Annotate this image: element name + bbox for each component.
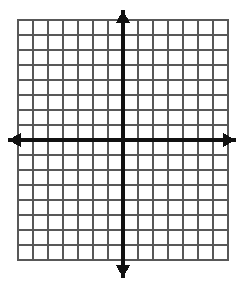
figure-background [0, 0, 240, 286]
coordinate-grid-figure [0, 0, 240, 286]
coordinate-grid-svg [0, 0, 240, 286]
